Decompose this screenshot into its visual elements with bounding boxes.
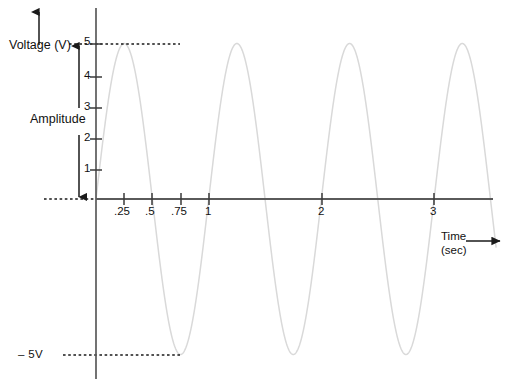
amplitude-label: Amplitude xyxy=(30,113,86,126)
x-tick-label-3: 3 xyxy=(430,205,436,217)
y-tick-label-2: 2 xyxy=(84,131,90,143)
sine-wave-plot xyxy=(0,0,509,379)
x-tick-label-05: .5 xyxy=(145,205,155,217)
negative-peak-label: – 5V xyxy=(18,348,43,360)
y-tick-label-5: 5 xyxy=(84,35,90,47)
x-tick-label-025: .25 xyxy=(114,205,130,217)
x-tick-label-2: 2 xyxy=(318,205,324,217)
x-axis xyxy=(96,193,493,205)
y-tick-label-3: 3 xyxy=(84,100,90,112)
y-tick-label-4: 4 xyxy=(84,69,90,81)
x-tick-label-075: .75 xyxy=(171,205,187,217)
x-axis-label-line1: Time xyxy=(441,229,467,243)
y-axis-label: Voltage (V) xyxy=(9,39,71,52)
x-axis-label-line2: (sec) xyxy=(441,243,467,257)
figure-canvas: 5 4 3 2 1 .25 .5 .75 1 2 3 Voltage (V) A… xyxy=(0,0,509,379)
y-tick-label-1: 1 xyxy=(84,162,90,174)
x-axis-label: Time (sec) xyxy=(441,229,467,257)
y-axis xyxy=(90,8,102,379)
x-tick-label-1: 1 xyxy=(205,205,211,217)
